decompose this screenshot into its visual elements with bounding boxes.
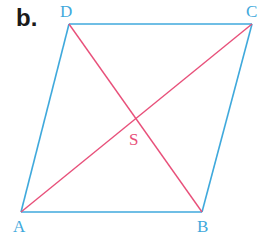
diagonal-bd <box>69 24 202 212</box>
center-label-s: S <box>129 130 138 149</box>
parallelogram-diagram: D C A B S <box>0 0 260 237</box>
vertex-label-d: D <box>60 2 72 21</box>
parallelogram-diagonals <box>21 24 252 212</box>
vertex-label-c: C <box>246 2 257 21</box>
diagonal-ac <box>21 24 252 212</box>
side-bc <box>202 24 252 212</box>
vertex-label-a: A <box>13 217 26 236</box>
side-da <box>21 24 69 212</box>
vertex-label-b: B <box>197 217 208 236</box>
